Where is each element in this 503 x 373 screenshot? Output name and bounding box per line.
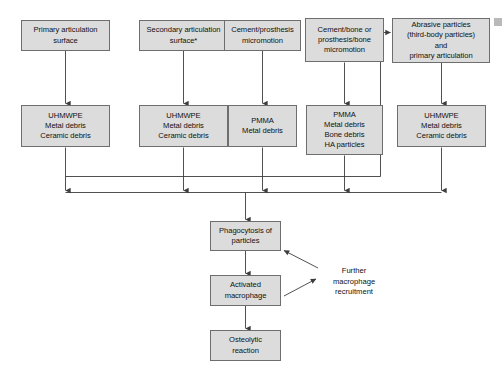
step-phagocytosis[interactable]: Phagocytosis of particles: [210, 221, 281, 251]
step-osteolytic-reaction-label: Osteolytic reaction: [213, 335, 278, 355]
annotation-further-macrophage-recruitment-label: Further macrophage recruitment: [333, 266, 375, 296]
debris-column-5[interactable]: UHMWPE Metal debris Ceramic debris: [397, 105, 486, 147]
step-osteolytic-reaction[interactable]: Osteolytic reaction: [210, 330, 281, 361]
source-cement-bone-micromotion[interactable]: Cement/bone or prosthesis/bone micromoti…: [305, 18, 384, 62]
step-phagocytosis-label: Phagocytosis of particles: [213, 226, 278, 246]
page-edge-artifact: [494, 18, 502, 26]
debris-column-2[interactable]: UHMWPE Metal debris Ceramic debris: [139, 105, 228, 147]
debris-column-4-label: PMMA Metal debris Bone debris HA particl…: [309, 110, 380, 150]
debris-column-4[interactable]: PMMA Metal debris Bone debris HA particl…: [306, 105, 383, 155]
debris-column-1[interactable]: UHMWPE Metal debris Ceramic debris: [21, 105, 110, 147]
debris-column-5-label: UHMWPE Metal debris Ceramic debris: [400, 111, 483, 141]
debris-column-2-label: UHMWPE Metal debris Ceramic debris: [142, 111, 225, 141]
source-primary-articulation[interactable]: Primary articulation surface: [21, 20, 110, 51]
connector-macrophage-to-recruitment: [284, 279, 316, 296]
source-secondary-articulation[interactable]: Secondary articulation surface*: [139, 20, 228, 51]
connector-recruitment-to-phagocytosis: [284, 251, 318, 269]
source-cement-prosthesis-micromotion[interactable]: Cement/prosthesis micromotion: [224, 20, 301, 51]
debris-column-3-label: PMMA Metal debris: [231, 116, 294, 136]
source-cement-bone-micromotion-label: Cement/bone or prosthesis/bone micromoti…: [308, 25, 381, 55]
debris-column-1-label: UHMWPE Metal debris Ceramic debris: [24, 111, 107, 141]
source-secondary-articulation-label: Secondary articulation surface*: [142, 25, 225, 45]
step-activated-macrophage-label: Activated macrophage: [213, 280, 278, 300]
debris-column-3[interactable]: PMMA Metal debris: [228, 105, 297, 147]
flowchart-canvas: Primary articulation surface Secondary a…: [0, 0, 503, 373]
source-abrasive-particles[interactable]: Abrasive particles (third-body particles…: [392, 18, 490, 63]
source-abrasive-particles-label: Abrasive particles (third-body particles…: [395, 20, 487, 60]
source-cement-prosthesis-micromotion-label: Cement/prosthesis micromotion: [227, 25, 298, 45]
step-activated-macrophage[interactable]: Activated macrophage: [210, 275, 281, 306]
source-primary-articulation-label: Primary articulation surface: [24, 25, 107, 45]
annotation-further-macrophage-recruitment: Further macrophage recruitment: [319, 256, 389, 297]
